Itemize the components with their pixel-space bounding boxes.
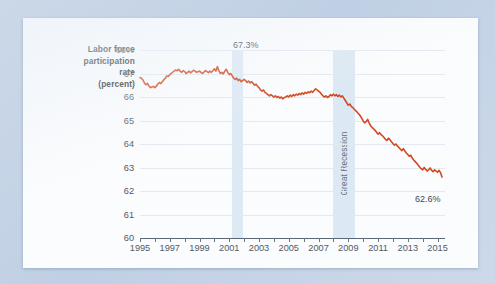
x-tick-mark xyxy=(348,238,349,242)
x-tick-mark xyxy=(259,238,260,242)
x-tick-label: 2001 xyxy=(219,243,239,253)
y-axis-title-line-4: (percent) xyxy=(49,79,135,91)
x-tick-mark xyxy=(274,238,275,242)
chart-card: Labor force participation rate (percent)… xyxy=(23,18,478,268)
x-tick-mark xyxy=(423,238,424,242)
x-tick-mark xyxy=(438,238,439,242)
x-tick-mark xyxy=(363,238,364,242)
x-tick-label: 1997 xyxy=(160,243,180,253)
y-tick-label: 61 xyxy=(124,210,134,220)
x-tick-mark xyxy=(200,238,201,242)
y-tick-label: 68% xyxy=(116,45,134,55)
x-tick-label: 2011 xyxy=(368,243,388,253)
x-tick-mark xyxy=(333,238,334,242)
x-tick-mark xyxy=(229,238,230,242)
x-tick-label: 1999 xyxy=(189,243,209,253)
x-tick-label: 2015 xyxy=(427,243,447,253)
y-axis-title-line-2: participation xyxy=(49,56,135,68)
y-axis-title-line-3: rate xyxy=(49,67,135,79)
x-tick-label: 2007 xyxy=(308,243,328,253)
annotation-latest-value: 62.6% xyxy=(415,194,441,204)
y-tick-label: 67 xyxy=(124,69,134,79)
x-tick-mark xyxy=(378,238,379,242)
x-tick-label: 2005 xyxy=(279,243,299,253)
x-tick-mark xyxy=(155,238,156,242)
x-tick-mark xyxy=(244,238,245,242)
x-tick-label: 1995 xyxy=(130,243,150,253)
y-tick-label: 65 xyxy=(124,116,134,126)
x-tick-mark xyxy=(140,238,141,242)
plot-area: Great Recession 68%6766656463626160 xyxy=(140,50,445,238)
y-tick-label: 66 xyxy=(124,92,134,102)
x-tick-label: 2003 xyxy=(249,243,269,253)
labor-force-participation-chart: Labor force participation rate (percent)… xyxy=(23,18,478,268)
y-tick-label: 62 xyxy=(124,186,134,196)
x-tick-label: 2013 xyxy=(398,243,418,253)
x-tick-mark xyxy=(214,238,215,242)
x-tick-mark xyxy=(408,238,409,242)
y-tick-label: 64 xyxy=(124,139,134,149)
annotation-peak-value: 67.3% xyxy=(233,40,259,50)
x-tick-mark xyxy=(304,238,305,242)
x-tick-mark xyxy=(185,238,186,242)
x-tick-mark xyxy=(170,238,171,242)
series-line xyxy=(140,50,445,238)
y-tick-label: 60 xyxy=(124,233,134,243)
x-tick-mark xyxy=(393,238,394,242)
y-tick-label: 63 xyxy=(124,163,134,173)
x-tick-label: 2009 xyxy=(338,243,358,253)
x-tick-mark xyxy=(289,238,290,242)
screenshot-stage: Labor force participation rate (percent)… xyxy=(0,0,495,284)
x-axis-line xyxy=(140,238,445,239)
x-tick-mark xyxy=(319,238,320,242)
